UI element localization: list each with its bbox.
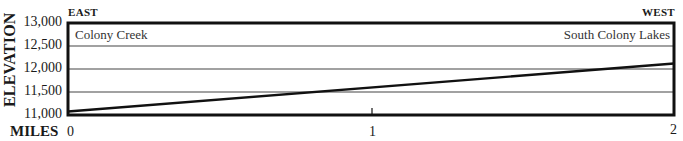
plot-area xyxy=(0,0,683,141)
colony-creek-label: Colony Creek xyxy=(75,28,148,41)
x-tick-2: 2 xyxy=(670,123,677,137)
x-axis-label: MILES xyxy=(10,124,58,139)
x-tick-0: 0 xyxy=(67,125,74,139)
x-tick-1: 1 xyxy=(369,125,376,139)
south-colony-lakes-label: South Colony Lakes xyxy=(564,28,670,41)
elevation-profile-line xyxy=(68,64,674,112)
